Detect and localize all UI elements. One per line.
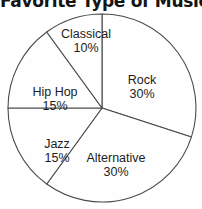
pie-label-hip-hop-percent: 15%: [5, 100, 105, 114]
pie-label-classical-name: Classical: [36, 28, 136, 42]
pie-label-hip-hop: Hip Hop 15%: [5, 86, 105, 113]
pie-label-hip-hop-name: Hip Hop: [5, 86, 105, 100]
pie-label-jazz-name: Jazz: [7, 138, 107, 152]
pie-label-classical-percent: 10%: [36, 42, 136, 56]
pie-label-rock-name: Rock: [92, 74, 192, 88]
pie-label-alternative-percent: 30%: [66, 166, 166, 180]
pie-chart-figure: Favorite Type of Music Rock 30% Alternat…: [0, 0, 202, 209]
pie-label-jazz-percent: 15%: [7, 152, 107, 166]
pie-label-classical: Classical 10%: [36, 28, 136, 55]
pie-label-jazz: Jazz 15%: [7, 138, 107, 165]
pie-label-rock: Rock 30%: [92, 74, 192, 101]
pie-label-rock-percent: 30%: [92, 88, 192, 102]
